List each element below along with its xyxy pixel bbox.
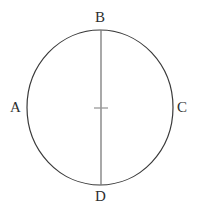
- point-label-b: B: [95, 10, 105, 25]
- point-label-c: C: [177, 100, 187, 115]
- point-label-d: D: [95, 189, 106, 204]
- geometry-figure: A B C D: [0, 0, 199, 215]
- point-label-a: A: [10, 100, 21, 115]
- figure-canvas: [0, 0, 199, 215]
